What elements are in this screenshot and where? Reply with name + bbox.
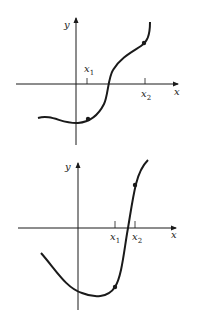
x2-label: x2 [141,88,151,102]
y-label: y [63,19,70,30]
x2-label: x2 [132,231,142,245]
y-label: y [64,161,71,172]
x1-label: x1 [110,231,120,245]
point-x1 [86,117,90,121]
graph-bottom: y x x1 x2 [18,160,177,310]
point-x1 [113,285,117,289]
x1-label: x1 [84,63,94,77]
x-label: x [171,229,177,240]
point-x2 [142,41,146,45]
figure: y x x1 x2 y x x1 x2 [0,0,209,326]
x-label: x [174,86,180,97]
graph-top: y x x1 x2 [16,18,180,145]
point-x2 [133,183,137,187]
